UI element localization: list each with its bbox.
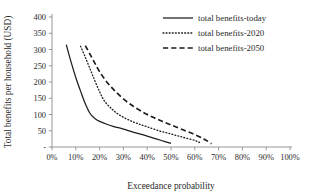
x-tick-label: 80% (235, 153, 250, 162)
y-tick-label: 300 (33, 46, 46, 55)
y-tick-label: - (43, 143, 46, 152)
x-tick-label: 20% (92, 153, 107, 162)
legend-label: total benefits-today (198, 13, 267, 23)
x-tick-label: 100% (280, 153, 300, 162)
y-tick-label: 150 (33, 94, 46, 103)
x-tick-label: 40% (140, 153, 155, 162)
x-tick-label: 90% (259, 153, 274, 162)
chart-plot-area: -50100150200250300350400 0%10%20%30%40%5… (0, 0, 319, 194)
x-tick-label: 0% (46, 153, 57, 162)
x-tick-label: 50% (163, 153, 178, 162)
x-tick-label: 60% (187, 153, 202, 162)
chart-container: -50100150200250300350400 0%10%20%30%40%5… (0, 0, 319, 194)
x-axis-title: Exceedance probability (127, 181, 215, 191)
x-tick-label: 70% (211, 153, 226, 162)
y-axis-title: Total benefits per household (USD) (3, 16, 14, 149)
y-tick-label: 400 (33, 13, 46, 22)
x-tick-label: 30% (116, 153, 131, 162)
legend-label: total benefits-2050 (198, 43, 265, 53)
data-series-group (66, 45, 211, 144)
legend-label: total benefits-2020 (198, 28, 265, 38)
x-axis: 0%10%20%30%40%50%60%70%80%90%100% (46, 147, 299, 162)
y-tick-label: 200 (33, 78, 46, 87)
series-line-dotted (81, 46, 200, 142)
y-axis: -50100150200250300350400 (33, 13, 52, 152)
y-tick-label: 350 (33, 29, 46, 38)
x-tick-label: 10% (68, 153, 83, 162)
y-tick-label: 100 (33, 111, 46, 120)
y-tick-label: 250 (33, 62, 46, 71)
y-tick-label: 50 (38, 127, 46, 136)
series-line-dashed (85, 46, 211, 144)
chart-legend: total benefits-todaytotal benefits-2020t… (163, 13, 267, 53)
